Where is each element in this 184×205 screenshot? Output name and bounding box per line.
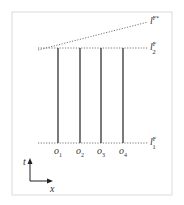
label-o4: o4 xyxy=(119,145,127,158)
label-lF1: lF1 xyxy=(150,136,157,151)
label-lF-star: lF* xyxy=(150,15,159,26)
axis-label-t: t xyxy=(23,156,26,167)
label-o3: o3 xyxy=(97,145,105,158)
axes-icon xyxy=(28,158,54,184)
slanted-dotted-line xyxy=(38,22,148,50)
axis-label-x: x xyxy=(49,183,55,194)
label-o1: o1 xyxy=(54,145,62,158)
spacetime-diagram: lF* lF2 lF1 o1 o2 o3 o4 t x xyxy=(0,0,184,205)
frame-border xyxy=(12,12,172,195)
label-lF2: lF2 xyxy=(150,41,157,56)
label-o2: o2 xyxy=(76,145,84,158)
